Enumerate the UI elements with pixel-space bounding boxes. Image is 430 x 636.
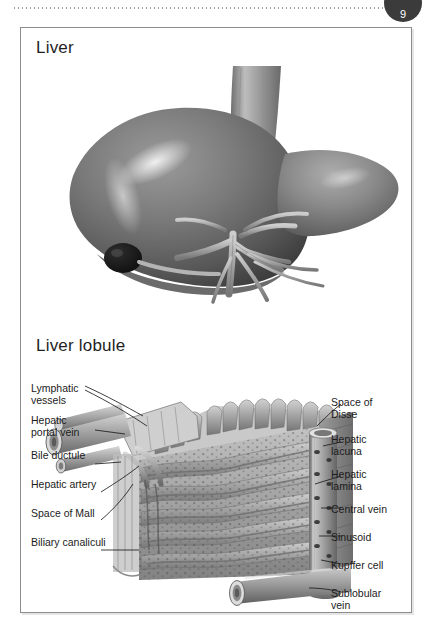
label-biliary-canaliculi: Biliary canaliculi: [31, 536, 106, 548]
liver-gross-anatomy-illustration: [27, 58, 407, 326]
label-hepatic-portal-vein: Hepatic portal vein: [31, 414, 79, 438]
label-space-of-disse: Space of Disse: [331, 396, 372, 420]
label-lymphatic-vessels: Lymphatic vessels: [31, 382, 78, 406]
label-bile-ductule: Bile ductule: [31, 449, 85, 461]
page-number-badge: 9: [384, 0, 422, 22]
label-kupffer-cell: Kupffer cell: [331, 559, 383, 571]
label-hepatic-artery: Hepatic artery: [31, 478, 96, 490]
label-hepatic-lamina: Hepatic lamina: [331, 468, 367, 492]
content-frame: Liver Liver lobule: [20, 27, 412, 613]
label-central-vein: Central vein: [331, 503, 387, 515]
page-trim-dotted-rule: [14, 7, 414, 9]
label-space-of-mall: Space of Mall: [31, 507, 95, 519]
label-sinusoid: Sinusoid: [331, 531, 371, 543]
section-heading-liver-lobule: Liver lobule: [36, 336, 125, 356]
section-heading-liver: Liver: [36, 38, 74, 58]
label-sublobular-vein: Sublobular vein: [331, 587, 381, 611]
label-hepatic-lacuna: Hepatic lacuna: [331, 433, 367, 457]
